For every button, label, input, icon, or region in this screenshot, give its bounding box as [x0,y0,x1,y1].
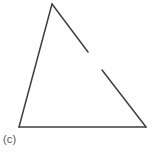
figure-caption: (c) [3,132,16,146]
right-edge-lower-line [102,70,146,127]
figure-panel: (c) [0,0,157,153]
left-edge-line [19,4,52,127]
right-edge-upper-line [52,4,88,52]
triangle-diagram [0,0,157,153]
